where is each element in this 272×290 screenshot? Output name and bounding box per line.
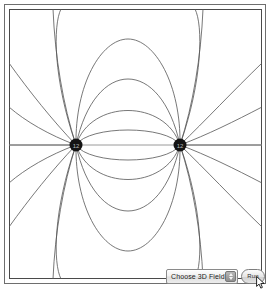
field-plot-panel: 12 12 xyxy=(9,9,262,279)
left-charge-label: 12 xyxy=(73,143,80,149)
choose-3d-field-popup-menu[interactable]: Choose 3D Field xyxy=(166,269,238,284)
plot-background xyxy=(9,9,262,279)
updown-chevron-icon xyxy=(225,271,236,282)
application-window: 12 12 Choose 3D Field Run xyxy=(0,0,272,290)
choose-3d-field-label: Choose 3D Field xyxy=(167,273,225,280)
right-charge-label: 12 xyxy=(177,143,184,149)
run-button[interactable]: Run xyxy=(241,269,265,284)
run-button-label: Run xyxy=(247,273,258,279)
chevron-down-icon xyxy=(229,277,233,280)
bottom-controls-bar: Choose 3D Field Run xyxy=(166,266,268,286)
chevron-up-icon xyxy=(229,273,233,276)
electric-dipole-field-plot: 12 12 xyxy=(9,9,262,279)
